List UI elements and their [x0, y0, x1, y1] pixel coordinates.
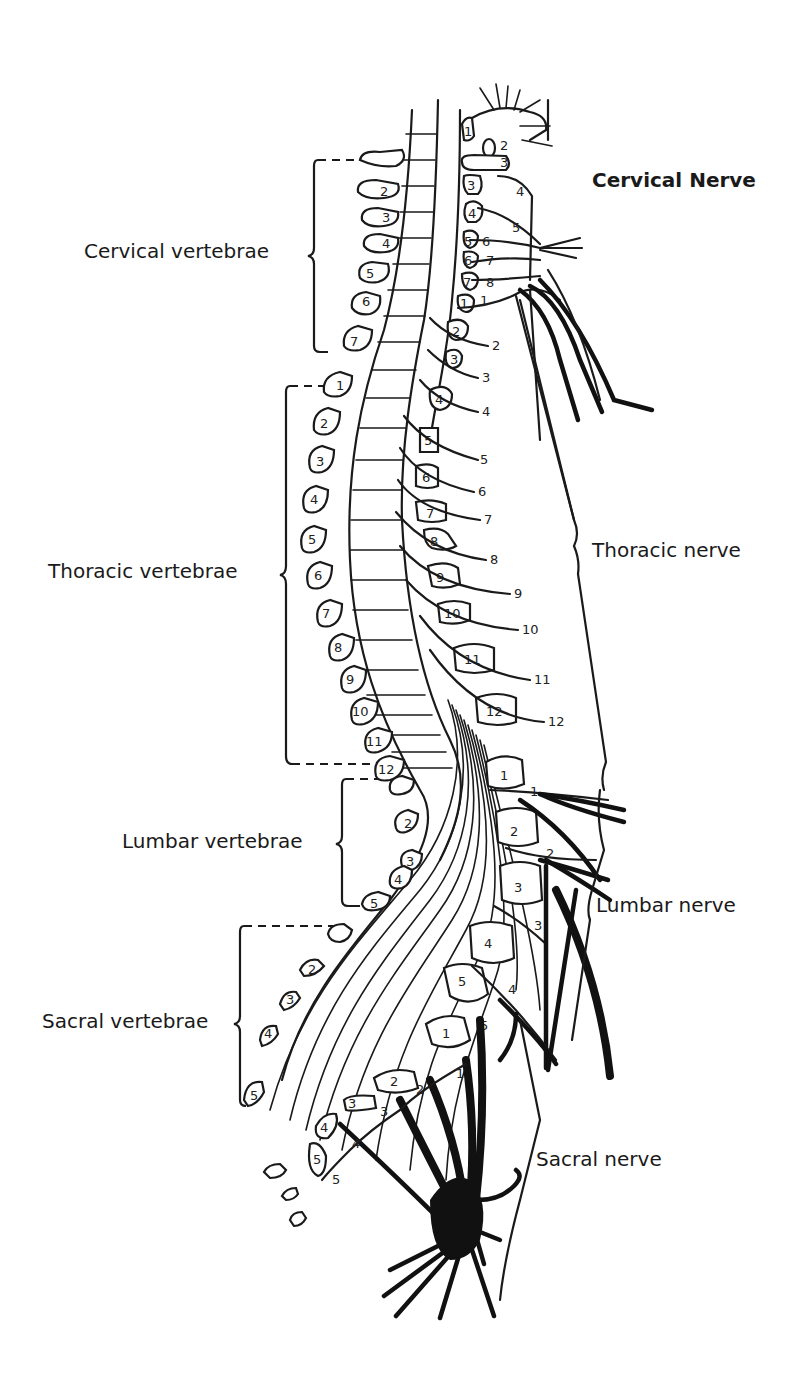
cervical-nerve-6-number: 6 — [482, 234, 490, 249]
body-c7-number: 7 — [463, 275, 471, 290]
thoracic-nerve-7-number: 7 — [484, 512, 492, 527]
spinous-t9-number: 9 — [346, 672, 354, 687]
bracket-sacral — [234, 926, 340, 1106]
left-spinous-processes: 2 3 4 5 6 7 1 2 3 4 5 6 7 8 9 10 11 12 — [244, 150, 422, 1226]
label-lumbar-nerve: Lumbar nerve — [596, 893, 736, 917]
lumbar-nerve-3-number: 3 — [534, 918, 542, 933]
body-c1-number: 1 — [464, 124, 472, 139]
spinous-c4-number: 4 — [382, 236, 390, 251]
spinal-nerve-diagram: Cervical vertebrae Thoracic vertebrae Lu… — [0, 0, 806, 1377]
body-l2-number: 2 — [510, 824, 518, 839]
thoracic-nerve-6-number: 6 — [478, 484, 486, 499]
thoracic-nerve-12-number: 12 — [548, 714, 565, 729]
body-s5-number: 5 — [313, 1152, 321, 1167]
spinous-s3-number: 3 — [286, 992, 294, 1007]
body-l5-number: 5 — [458, 974, 466, 989]
body-s1-number: 1 — [442, 1026, 450, 1041]
body-s2-number: 2 — [390, 1074, 398, 1089]
spinous-t8-number: 8 — [334, 640, 342, 655]
sacral-nerve-3-number: 3 — [380, 1104, 388, 1119]
body-l1-number: 1 — [500, 768, 508, 783]
thoracic-nerve-5-number: 5 — [480, 452, 488, 467]
spinous-t7-number: 7 — [322, 606, 330, 621]
label-thoracic-vertebrae: Thoracic vertebrae — [47, 559, 238, 583]
spinous-t6-number: 6 — [314, 568, 322, 583]
spinous-t3-number: 3 — [316, 454, 324, 469]
body-s3-number: 3 — [348, 1096, 356, 1111]
cervical-nerve-5-number: 5 — [512, 220, 520, 235]
spinous-c3-number: 3 — [382, 210, 390, 225]
spinous-t11-number: 11 — [366, 734, 383, 749]
spinous-l4-number: 4 — [394, 872, 402, 887]
spinous-c5-number: 5 — [366, 266, 374, 281]
spinous-t2-number: 2 — [320, 416, 328, 431]
body-c5-number: 5 — [464, 234, 472, 249]
label-cervical-vertebrae: Cervical vertebrae — [84, 239, 269, 263]
spinous-s4-number: 4 — [264, 1026, 272, 1041]
sacral-nerve-2-number: 2 — [416, 1082, 424, 1097]
lumbar-nerve-2-number: 2 — [546, 846, 554, 861]
thoracic-nerve-1-number: 1 — [480, 293, 488, 308]
spinous-l5-number: 5 — [370, 896, 378, 911]
body-t3-number: 3 — [450, 352, 458, 367]
bracket-lumbar — [336, 779, 390, 906]
thoracic-nerve-4-number: 4 — [482, 404, 490, 419]
body-l3-number: 3 — [514, 880, 522, 895]
spinous-t5-number: 5 — [308, 532, 316, 547]
sacral-nerve-1-number: 1 — [456, 1066, 464, 1081]
label-sacral-nerve: Sacral nerve — [536, 1147, 662, 1171]
spinous-t12-number: 12 — [378, 762, 395, 777]
thoracic-nerve-2-number: 2 — [492, 338, 500, 353]
label-lumbar-vertebrae: Lumbar vertebrae — [122, 829, 302, 853]
body-c2b-number: 3 — [500, 155, 508, 170]
spinous-t4-number: 4 — [310, 492, 318, 507]
spinous-l2-number: 2 — [404, 816, 412, 831]
spinous-c6-number: 6 — [362, 294, 370, 309]
body-s4-number: 4 — [320, 1120, 328, 1135]
label-thoracic-nerve: Thoracic nerve — [591, 538, 741, 562]
spinous-s5-number: 5 — [250, 1088, 258, 1103]
thoracic-nerve-11-number: 11 — [534, 672, 551, 687]
body-c4-number: 4 — [468, 206, 476, 221]
thoracic-nerve-8-number: 8 — [490, 552, 498, 567]
lumbar-nerve-4-number: 4 — [508, 982, 516, 997]
thoracic-nerve-9-number: 9 — [514, 586, 522, 601]
cervical-nerve-4-number: 4 — [516, 184, 524, 199]
body-c3-number: 3 — [467, 178, 475, 193]
spinous-t10-number: 10 — [352, 704, 369, 719]
spinous-c2-number: 2 — [380, 184, 388, 199]
cervical-nerve-7-number: 7 — [486, 253, 494, 268]
body-c6-number: 6 — [464, 253, 472, 268]
sacral-nerve-4-number: 4 — [352, 1136, 360, 1151]
spinous-c7-number: 7 — [350, 334, 358, 349]
label-sacral-vertebrae: Sacral vertebrae — [42, 1009, 208, 1033]
sacral-nerve-5-number: 5 — [332, 1172, 340, 1187]
body-c2-number: 2 — [500, 138, 508, 153]
spinous-s2-number: 2 — [308, 962, 316, 977]
spinous-t1-number: 1 — [336, 378, 344, 393]
lumbar-nerve-1-number: 1 — [530, 784, 538, 799]
cervical-nerve-8-number: 8 — [486, 275, 494, 290]
body-l4-number: 4 — [484, 936, 492, 951]
thoracic-nerve-3-number: 3 — [482, 370, 490, 385]
label-cervical-nerve: Cervical Nerve — [592, 168, 756, 192]
thoracic-nerve-10-number: 10 — [522, 622, 539, 637]
